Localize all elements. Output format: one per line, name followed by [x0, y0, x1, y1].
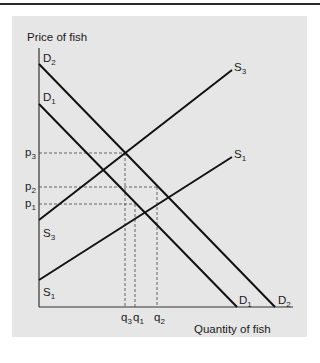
dashed-guides	[39, 153, 157, 307]
price-labels: p3p2p1	[25, 146, 36, 212]
curve-label-s1-top: S1	[234, 148, 247, 163]
curve-labels: D2D1S3S1S3S1D1D2	[43, 52, 291, 309]
supply-curve-s1	[39, 157, 232, 280]
x-axis-label: Quantity of fish	[194, 323, 271, 335]
curve-label-s3-bottom: S3	[43, 227, 56, 242]
curve-label-s1-bottom: S1	[43, 286, 56, 301]
curve-label-d2-top: D2	[43, 52, 56, 67]
quantity-label-q1: q1	[133, 311, 144, 326]
quantity-label-q3: q3	[121, 311, 132, 326]
demand-curve-d2	[39, 64, 275, 307]
demand-curve-d1	[39, 104, 237, 307]
curve-label-d1-top: D1	[43, 91, 56, 106]
curves	[39, 64, 275, 307]
curve-label-s3-top: S3	[234, 61, 247, 76]
quantity-label-q2: q2	[154, 311, 165, 326]
y-axis-label: Price of fish	[27, 31, 87, 43]
price-label-p3: p3	[25, 146, 36, 161]
supply-demand-diagram: Price of fish Quantity of fish D2D1S3S1S…	[0, 0, 320, 363]
price-label-p1: p1	[25, 197, 36, 212]
quantity-labels: q3q1q2	[121, 311, 165, 326]
price-label-p2: p2	[25, 180, 36, 195]
